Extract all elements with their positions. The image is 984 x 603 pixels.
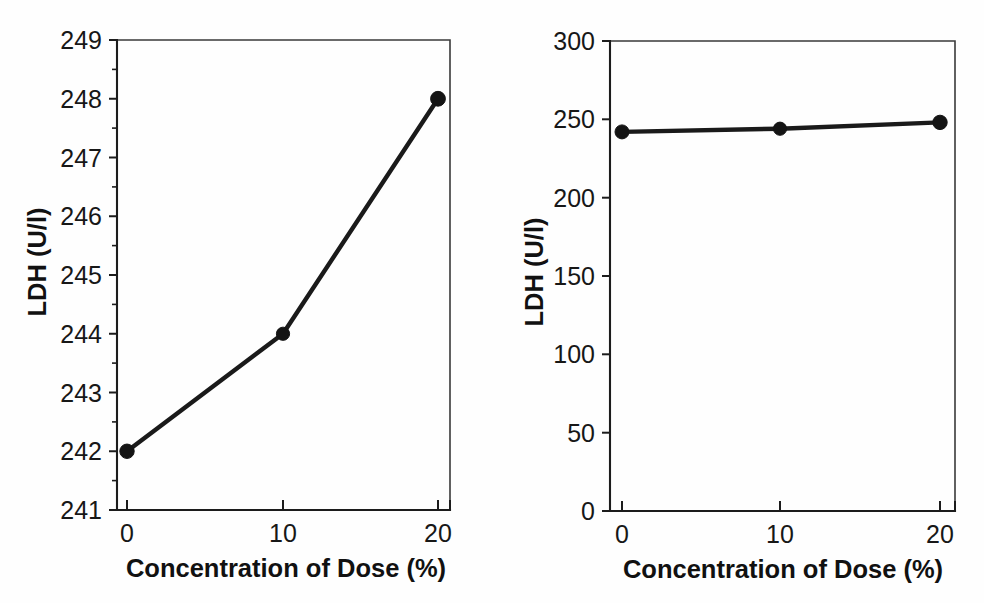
x-axis-title: Concentration of Dose (%) — [623, 557, 943, 583]
x-major-ticks-left — [127, 500, 450, 510]
plot-axes-left — [117, 40, 450, 510]
y-tick-label: 244 — [30, 321, 102, 346]
data-series-line-left — [127, 99, 438, 452]
y-tick-label: 0 — [522, 499, 595, 524]
y-tick-label: 250 — [522, 107, 595, 132]
plot-frame-right — [610, 41, 955, 511]
y-tick-label: 241 — [30, 498, 102, 523]
y-tick-label: 247 — [30, 145, 102, 170]
y-axis-title: LDH (U/l) — [25, 207, 51, 316]
x-major-ticks-right — [622, 501, 955, 511]
data-point-marker — [615, 125, 629, 139]
x-tick-label: 0 — [615, 522, 629, 547]
x-tick-label: 10 — [766, 522, 794, 547]
data-point-marker — [276, 327, 289, 340]
chart-panel-right: 300 250 200 150 100 50 0 0 10 20 Concent… — [492, 0, 984, 603]
x-tick-label: 20 — [424, 521, 452, 546]
y-tick-label: 300 — [522, 29, 595, 54]
figure-canvas: 249 248 247 246 245 244 243 242 241 0 10… — [0, 0, 984, 603]
x-tick-label: 20 — [926, 522, 954, 547]
x-tick-label: 10 — [269, 521, 297, 546]
y-major-ticks-right — [602, 41, 610, 511]
y-tick-label: 243 — [30, 380, 102, 405]
y-tick-label: 242 — [30, 439, 102, 464]
y-tick-label: 249 — [30, 28, 102, 53]
plot-frame-left — [117, 40, 450, 510]
data-point-marker — [933, 115, 947, 129]
y-tick-label: 248 — [30, 86, 102, 111]
x-axis-title: Concentration of Dose (%) — [126, 556, 446, 582]
plot-axes-right — [610, 41, 955, 511]
x-tick-label: 0 — [120, 521, 134, 546]
y-tick-label: 200 — [522, 185, 595, 210]
y-axis-title: LDH (U/l) — [522, 217, 548, 326]
data-point-marker — [431, 91, 446, 106]
data-point-marker — [120, 444, 134, 458]
y-tick-label: 50 — [522, 420, 595, 445]
y-tick-label: 100 — [522, 342, 595, 367]
data-point-marker — [773, 122, 786, 135]
chart-panel-left: 249 248 247 246 245 244 243 242 241 0 10… — [0, 0, 492, 603]
y-major-ticks-left — [109, 40, 117, 510]
